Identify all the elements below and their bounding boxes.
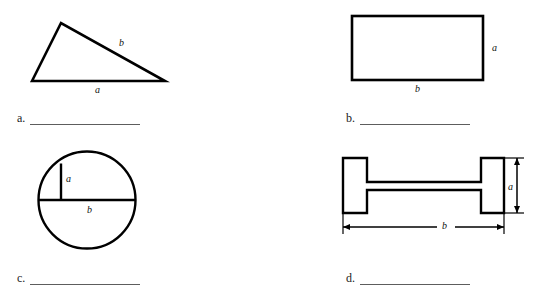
figures-canvas: [0, 0, 536, 307]
answer-letter-b: b.: [346, 112, 355, 125]
triangle-figure: [32, 23, 165, 81]
answer-blank-c[interactable]: [30, 284, 140, 285]
height-dimension-arrow-top: [514, 158, 520, 165]
answer-row-c: c.: [17, 272, 140, 285]
width-dimension-arrow-left: [343, 224, 350, 230]
rectangle-figure: [352, 16, 483, 80]
answer-letter-a: a.: [17, 112, 25, 125]
triangle-hypotenuse-label: b: [119, 38, 124, 48]
answer-letter-d: d.: [346, 272, 355, 285]
answer-row-a: a.: [17, 112, 140, 125]
worksheet-page: b a a b a b a b a. b. c. d.: [0, 0, 536, 307]
triangle-base-label: a: [95, 85, 100, 95]
rectangle-height-label: a: [492, 43, 497, 53]
rectangle-outline: [352, 16, 483, 80]
answer-letter-c: c.: [17, 272, 25, 285]
answer-blank-b[interactable]: [360, 124, 470, 125]
answer-row-d: d.: [346, 272, 470, 285]
height-dimension-arrow-bottom: [514, 206, 520, 213]
answer-row-b: b.: [346, 112, 470, 125]
answer-blank-d[interactable]: [360, 284, 470, 285]
ibeam-height-label: a: [508, 182, 513, 192]
width-dimension-arrow-right: [497, 224, 504, 230]
answer-blank-a[interactable]: [30, 124, 140, 125]
circle-figure: [39, 152, 136, 249]
circle-diameter-label: b: [87, 205, 92, 215]
circle-radius-label: a: [66, 174, 71, 184]
triangle-outline: [32, 23, 165, 81]
circle-outline: [39, 152, 136, 249]
ibeam-figure: [343, 158, 524, 234]
ibeam-width-label: b: [442, 221, 447, 231]
ibeam-outline: [343, 158, 504, 213]
rectangle-width-label: b: [415, 84, 420, 94]
